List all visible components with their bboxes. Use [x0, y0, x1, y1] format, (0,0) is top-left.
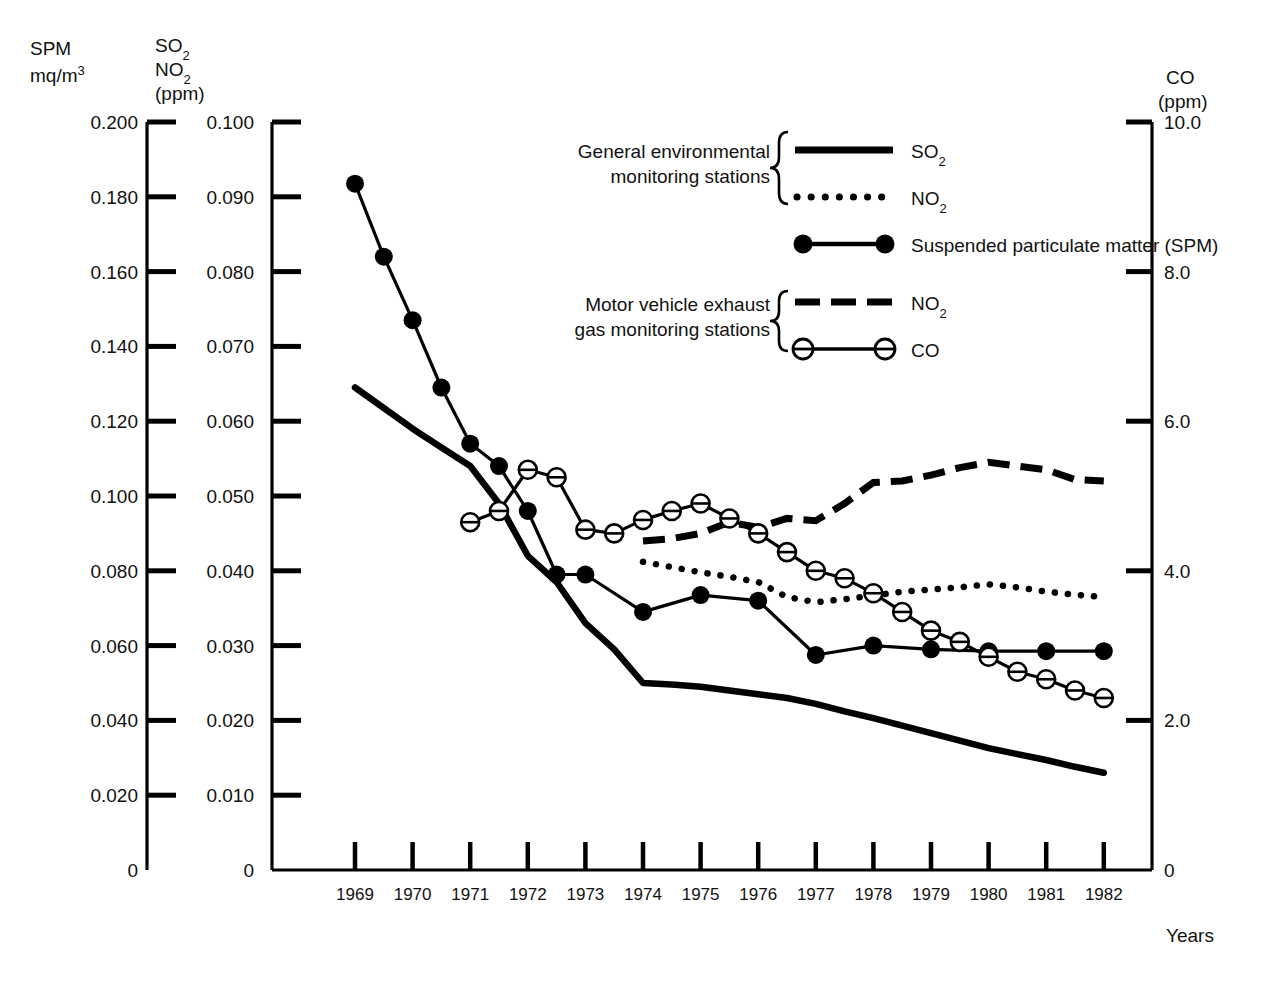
series-marker-spm — [634, 603, 652, 621]
legend-label: CO — [911, 340, 940, 361]
right-axis-title-line1: CO — [1166, 67, 1195, 88]
series-marker-spm — [807, 646, 825, 664]
left-outer-tick-label: 0.040 — [90, 710, 138, 731]
legend-sample-spm-marker — [876, 235, 895, 254]
left-outer-tick-label: 0.100 — [90, 486, 138, 507]
right-axis-tick-label: 10.0 — [1164, 112, 1201, 133]
left-inner-tick-label: 0.020 — [206, 710, 254, 731]
legend-label: SO2 — [911, 141, 946, 169]
air-pollution-trend-chart: 0.2000.1800.1600.1400.1200.1000.0800.060… — [0, 0, 1271, 1001]
x-axis-tick-label: 1977 — [797, 885, 835, 904]
right-axis-tick-label: 0 — [1164, 860, 1175, 881]
x-axis-tick-label: 1979 — [912, 885, 950, 904]
left-inner-tick-label: 0.050 — [206, 486, 254, 507]
series-marker-spm — [432, 379, 450, 397]
x-axis-tick-label: 1980 — [970, 885, 1008, 904]
right-axis-tick-label: 4.0 — [1164, 561, 1190, 582]
left-inner-tick-label: 0.010 — [206, 785, 254, 806]
left-inner-tick-label: 0 — [243, 860, 254, 881]
series-marker-spm — [461, 435, 479, 453]
series-layer — [346, 175, 1113, 773]
x-axis-years: 1969197019711972197319741975197619771978… — [272, 842, 1214, 946]
left-outer-axis-spm: 0.2000.1800.1600.1400.1200.1000.0800.060… — [30, 38, 176, 881]
x-axis-tick-label: 1982 — [1085, 885, 1123, 904]
series-marker-spm — [1095, 642, 1113, 660]
chart-page: 0.2000.1800.1600.1400.1200.1000.0800.060… — [0, 0, 1271, 1001]
legend-label: NO2 — [911, 293, 947, 321]
x-axis-tick-label: 1970 — [394, 885, 432, 904]
left-outer-axis-title-line1: SPM — [30, 38, 71, 59]
left-outer-tick-label: 0 — [127, 860, 138, 881]
legend-group1-line2: monitoring stations — [611, 166, 770, 187]
legend: General environmentalmonitoring stations… — [575, 132, 1219, 361]
series-marker-spm — [375, 248, 393, 266]
right-axis-tick-label: 8.0 — [1164, 262, 1190, 283]
left-outer-tick-label: 0.060 — [90, 636, 138, 657]
series-marker-spm — [404, 311, 422, 329]
legend-group2-line2: gas monitoring stations — [575, 319, 770, 340]
right-axis-title-line2: (ppm) — [1158, 91, 1208, 112]
series-marker-spm — [576, 566, 594, 584]
left-outer-tick-label: 0.160 — [90, 262, 138, 283]
series-marker-spm — [1037, 642, 1055, 660]
x-axis-tick-label: 1974 — [624, 885, 662, 904]
x-axis-tick-label: 1981 — [1027, 885, 1065, 904]
right-axis-tick-label: 6.0 — [1164, 411, 1190, 432]
left-inner-tick-label: 0.090 — [206, 187, 254, 208]
x-axis-tick-label: 1978 — [854, 885, 892, 904]
left-inner-tick-label: 0.030 — [206, 636, 254, 657]
left-inner-tick-label: 0.060 — [206, 411, 254, 432]
series-marker-spm — [922, 640, 940, 658]
series-dashed — [643, 462, 1104, 541]
right-axis-co: 10.08.06.04.02.00CO(ppm) — [1126, 67, 1208, 881]
left-inner-tick-label: 0.100 — [206, 112, 254, 133]
x-axis-tick-label: 1971 — [451, 885, 489, 904]
left-inner-axis-title-units: (ppm) — [155, 83, 205, 104]
x-axis-tick-label: 1972 — [509, 885, 547, 904]
legend-group1-line1: General environmental — [578, 141, 770, 162]
legend-group2-line1: Motor vehicle exhaust — [585, 294, 771, 315]
left-inner-tick-label: 0.080 — [206, 262, 254, 283]
series-marker-spm — [864, 637, 882, 655]
series-marker-spm — [519, 502, 537, 520]
left-inner-axis-so2-no2: 0.1000.0900.0800.0700.0600.0500.0400.030… — [155, 35, 301, 881]
legend-sample-spm-marker — [794, 235, 813, 254]
x-axis-tick-label: 1976 — [739, 885, 777, 904]
series-marker-spm — [692, 586, 710, 604]
left-outer-tick-label: 0.080 — [90, 561, 138, 582]
legend-brace-group2 — [770, 291, 788, 351]
x-axis-tick-label: 1973 — [566, 885, 604, 904]
left-outer-axis-title-line2: mq/m3 — [30, 63, 85, 87]
left-outer-tick-label: 0.140 — [90, 336, 138, 357]
series-marker-spm — [749, 592, 767, 610]
left-outer-tick-label: 0.200 — [90, 112, 138, 133]
left-inner-tick-label: 0.070 — [206, 336, 254, 357]
series-marker-spm — [346, 175, 364, 193]
series-line-co — [470, 470, 1104, 698]
right-axis-tick-label: 2.0 — [1164, 710, 1190, 731]
x-axis-label: Years — [1166, 925, 1214, 946]
left-outer-tick-label: 0.120 — [90, 411, 138, 432]
series-marker-spm — [490, 457, 508, 475]
legend-label: NO2 — [911, 188, 947, 216]
left-outer-tick-label: 0.180 — [90, 187, 138, 208]
left-outer-tick-label: 0.020 — [90, 785, 138, 806]
left-inner-tick-label: 0.040 — [206, 561, 254, 582]
series-line-no2-vehicle — [643, 462, 1104, 541]
legend-brace-group1 — [770, 132, 788, 204]
legend-label: Suspended particulate matter (SPM) — [911, 235, 1218, 256]
series-marker-spm — [548, 566, 566, 584]
x-axis-tick-label: 1969 — [336, 885, 374, 904]
x-axis-tick-label: 1975 — [682, 885, 720, 904]
